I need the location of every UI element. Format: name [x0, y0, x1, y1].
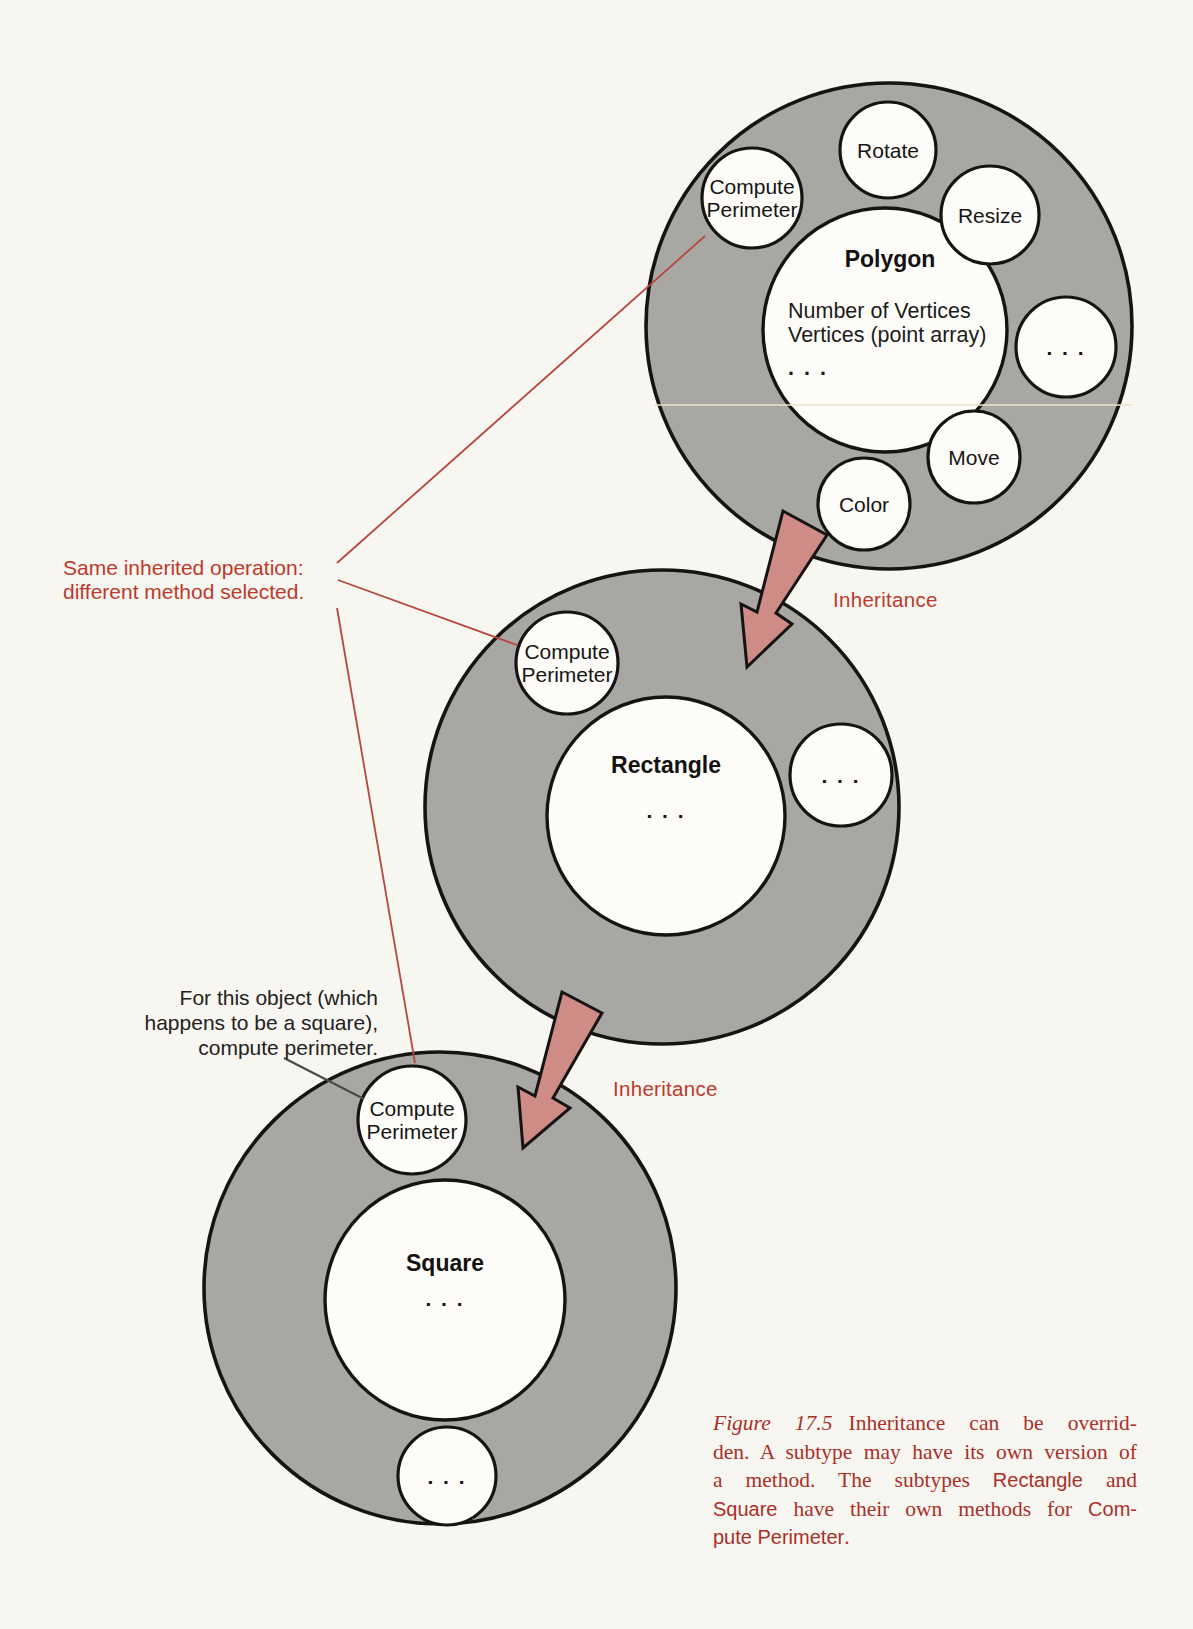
caption-word-square: Square: [713, 1498, 778, 1520]
caption-line-1: Figure 17.5Inheritance can be overrid-: [713, 1409, 1137, 1438]
square-method-label-more: . . .: [397, 1426, 497, 1526]
polygon-method-label-color: Color: [818, 458, 910, 550]
caption-word-rectangle: Rectangle: [993, 1469, 1083, 1491]
caption-word-com: Com-: [1088, 1498, 1137, 1520]
caption-line-5: pute Perimeter.: [713, 1523, 1137, 1552]
inheritance-label-bottom: Inheritance: [613, 1077, 718, 1101]
square-method-label-compute-perimeter: Compute Perimeter: [358, 1066, 466, 1174]
square-title: Square: [406, 1250, 484, 1277]
polygon-attributes: Number of Vertices Vertices (point array…: [788, 299, 986, 347]
polygon-method-label-compute-perimeter: Compute Perimeter: [700, 146, 804, 250]
rectangle-method-label-compute-perimeter: Compute Perimeter: [514, 610, 620, 716]
caption-text-5b: .: [844, 1525, 849, 1549]
book-page: Polygon Number of Vertices Vertices (poi…: [0, 0, 1193, 1629]
pointer-line-to-polygon-compute-perimeter: [337, 236, 705, 563]
figure-caption: Figure 17.5Inheritance can be overrid- d…: [713, 1409, 1137, 1552]
caption-word-pute-perimeter: pute Perimeter: [713, 1526, 844, 1548]
annotation-for-this-object: For this object (which happens to be a s…: [138, 985, 378, 1060]
square-ellipsis: . . .: [395, 1284, 495, 1312]
caption-line-3: a method. The subtypes Rectangle and: [713, 1466, 1137, 1495]
rectangle-ellipsis: . . .: [616, 796, 716, 824]
polygon-method-label-more: . . .: [1016, 297, 1116, 397]
caption-text-2: den. A subtype may have its own version …: [713, 1440, 1137, 1464]
polygon-ellipsis: . . .: [788, 356, 828, 380]
polygon-method-label-resize: Resize: [941, 166, 1039, 264]
rectangle-title: Rectangle: [611, 752, 721, 779]
annotation-same-inherited-operation: Same inherited operation: different meth…: [63, 556, 304, 603]
caption-text-1: Inheritance can be overrid-: [849, 1411, 1138, 1435]
polygon-method-label-rotate: Rotate: [840, 102, 936, 198]
caption-line-4: Square have their own methods for Com-: [713, 1495, 1137, 1524]
caption-figure-number: Figure 17.5: [713, 1411, 849, 1435]
polygon-method-label-move: Move: [928, 411, 1020, 503]
inheritance-label-top: Inheritance: [833, 588, 938, 612]
caption-text-3a: a method. The subtypes: [713, 1468, 993, 1492]
rectangle-method-label-more: . . .: [790, 724, 892, 826]
caption-text-3c: and: [1083, 1468, 1137, 1492]
polygon-title: Polygon: [845, 246, 936, 273]
caption-text-4b: have their own methods for: [778, 1497, 1089, 1521]
caption-line-2: den. A subtype may have its own version …: [713, 1438, 1137, 1467]
pointer-line-to-rectangle-compute-perimeter: [338, 580, 517, 645]
